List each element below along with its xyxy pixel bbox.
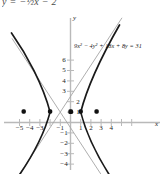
y-tick-label: 6 [60,56,68,64]
x-axis-label: x [155,120,158,128]
point-vertex-left [48,109,52,113]
x-tick-label: 3 [98,124,105,132]
x-tick-label: −3 [33,124,46,132]
y-tick-label: −1 [58,129,70,137]
x-tick-label: 4 [108,124,115,132]
x-tick-label: 1 [77,124,84,132]
y-tick-label: 1 [73,108,83,116]
equation-annotation: 9x² − 4y² + 18x + 8y = 31 [74,42,142,49]
y-tick-label: −4 [58,160,70,168]
y-tick-label: 5 [60,66,68,74]
y-tick-label: −2 [58,139,70,147]
y-tick-label: 2 [73,98,83,106]
plot-canvas [0,0,166,174]
y-tick-label: 3 [60,87,68,95]
y-axis-label: y [73,14,76,22]
y-tick-label: −3 [58,150,70,158]
point-focus-left [22,109,26,113]
hyperbola-left-branch [12,33,51,174]
y-tick-label: 4 [60,77,68,85]
x-tick-label: 2 [87,124,94,132]
hyperbola-figure: y = −½x − 2 [0,0,166,174]
point-focus-right [94,109,98,113]
